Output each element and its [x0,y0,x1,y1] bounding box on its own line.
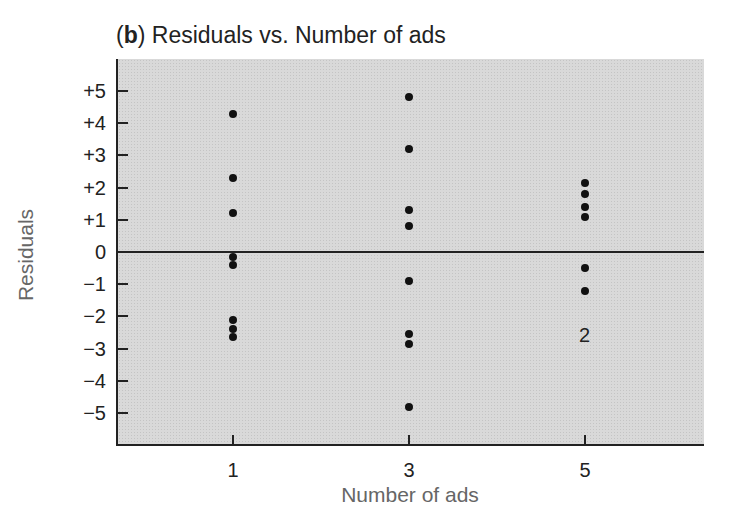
data-point [229,174,237,182]
chart-title: (b) Residuals vs. Number of ads [116,22,446,49]
data-point [581,287,589,295]
y-tick-label: −4 [56,371,106,391]
multiplicity-annotation: 2 [579,324,590,347]
x-tick-label: 1 [218,459,248,482]
x-tick-mark [408,435,410,445]
data-point [405,277,413,285]
x-tick-label: 5 [570,459,600,482]
y-tick-label: +3 [56,145,106,165]
data-point [405,145,413,153]
y-tick-label: −2 [56,306,106,326]
data-point [229,316,237,324]
chart-title-text: Residuals vs. Number of ads [152,22,446,48]
y-tick-label: +2 [56,178,106,198]
y-tick-mark [116,315,128,317]
y-tick-label: −5 [56,403,106,423]
y-tick-mark [116,348,128,350]
y-tick-mark [116,154,128,156]
data-point [581,213,589,221]
data-point [229,110,237,118]
data-point [581,203,589,211]
zero-reference-line [116,251,704,253]
y-tick-mark [116,90,128,92]
x-tick-mark [232,435,234,445]
x-tick-mark [584,435,586,445]
data-point [405,403,413,411]
y-tick-mark [116,219,128,221]
y-tick-label: +5 [56,81,106,101]
y-tick-mark [116,380,128,382]
y-tick-mark [116,412,128,414]
y-tick-label: +4 [56,113,106,133]
data-point [581,190,589,198]
y-tick-label: +1 [56,210,106,230]
data-point [405,340,413,348]
y-tick-mark [116,283,128,285]
data-point [229,253,237,261]
data-point [229,261,237,269]
x-axis-title: Number of ads [300,483,520,507]
y-tick-mark [116,122,128,124]
x-tick-label: 3 [394,459,424,482]
y-tick-label: 0 [56,242,106,262]
data-point [581,179,589,187]
y-tick-mark [116,187,128,189]
y-axis-title: Residuals [14,209,38,301]
y-tick-label: −3 [56,339,106,359]
y-tick-label: −1 [56,274,106,294]
panel-label: b [124,22,138,48]
